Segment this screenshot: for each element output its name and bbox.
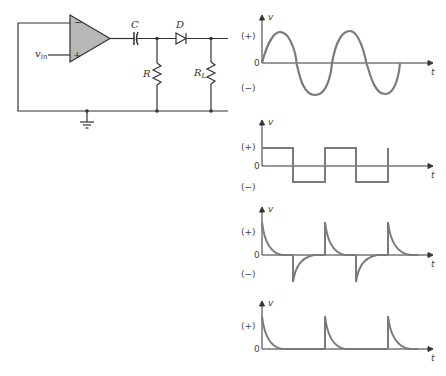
svg-text:(−): (−) (241, 182, 256, 192)
svg-text:(+): (+) (241, 227, 256, 237)
opamp-minus-label: − (74, 17, 82, 28)
diagram-canvas: − + vin C D R RL v t (+) 0 (−) v t (+) 0… (0, 0, 446, 376)
rectified-trace (262, 316, 418, 349)
resistor-label: R (142, 68, 151, 79)
capacitor-label: C (131, 19, 139, 30)
svg-text:v: v (268, 12, 274, 22)
svg-text:t: t (431, 353, 435, 363)
svg-text:(+): (+) (241, 142, 256, 152)
vin-label: vin (35, 48, 48, 61)
svg-text:(+): (+) (241, 31, 256, 41)
svg-text:0: 0 (254, 250, 260, 260)
svg-text:(−): (−) (241, 83, 256, 93)
opamp-plus-label: + (73, 49, 81, 60)
load-resistor-label: RL (193, 67, 207, 80)
plot-sine: v t (+) 0 (−) (241, 12, 435, 95)
svg-text:0: 0 (254, 344, 260, 354)
svg-text:v: v (268, 298, 274, 308)
square-trace (262, 148, 388, 182)
differentiated-trace (262, 222, 418, 282)
svg-text:v: v (268, 117, 274, 127)
plot-square: v t (+) 0 (−) (241, 117, 435, 192)
diode (176, 33, 186, 44)
svg-text:v: v (268, 204, 274, 214)
svg-text:t: t (431, 259, 435, 269)
svg-text:t: t (431, 170, 435, 180)
svg-text:t: t (431, 67, 435, 77)
plot-rectified: v t (+) 0 (241, 298, 435, 363)
plot-differentiated: v t (+) 0 (−) (241, 204, 435, 282)
svg-text:0: 0 (254, 58, 260, 68)
resistor-rl (207, 62, 215, 84)
diode-label: D (175, 19, 184, 30)
svg-text:(−): (−) (241, 269, 256, 279)
resistor-r (153, 63, 161, 85)
svg-text:0: 0 (254, 161, 260, 171)
svg-text:(+): (+) (241, 321, 256, 331)
